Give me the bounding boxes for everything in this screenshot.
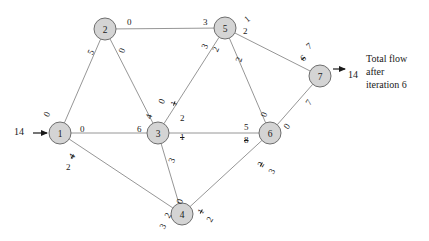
node-2[interactable]: 2 <box>94 18 116 40</box>
node-label-7: 7 <box>318 72 323 82</box>
caption-line-2: iteration 6 <box>366 78 407 91</box>
node-6[interactable]: 6 <box>259 122 281 144</box>
edge-label-l3-6-at3: 1 <box>180 133 185 142</box>
edge-2-3 <box>110 39 153 123</box>
edge-label-l3-6-at6a: 5 <box>244 123 249 132</box>
edge-label-l3-5-at3b: 2 <box>180 114 185 123</box>
node-label-2: 2 <box>103 25 108 35</box>
node-5[interactable]: 5 <box>214 17 236 39</box>
edge-label-l5-7-at5b: 2 <box>243 27 248 36</box>
node-label-5: 5 <box>223 24 228 34</box>
edge-3-4 <box>161 144 179 204</box>
network-flow-diagram: 1234567 05064223040031232301582012761223… <box>0 0 429 241</box>
edge-5-7 <box>235 33 310 71</box>
edge-label-l1-3-at3: 6 <box>137 125 142 134</box>
edge-4-6 <box>190 140 262 206</box>
edge-label-l2-5-at2: 0 <box>127 18 132 27</box>
caption-line-1: after <box>366 65 407 78</box>
node-label-4: 4 <box>180 210 185 220</box>
node-7[interactable]: 7 <box>309 65 331 87</box>
node-label-6: 6 <box>268 129 273 139</box>
node-4[interactable]: 4 <box>171 203 193 225</box>
node-label-1: 1 <box>58 129 63 139</box>
network-graph-svg: 1234567 <box>0 0 429 241</box>
edge-label-l3-6-at6b: 8 <box>244 136 249 145</box>
edge-label-l1-3-at1: 0 <box>80 125 85 134</box>
nodes-layer: 1234567 <box>49 17 331 225</box>
edge-label-l2-5-at5: 3 <box>203 18 208 27</box>
sink-flow-value: 14 <box>348 69 358 80</box>
caption-line-0: Total flow <box>366 52 407 65</box>
edge-label-l1-4-at1b: 2 <box>66 163 71 172</box>
node-label-3: 3 <box>156 129 161 139</box>
edge-2-5 <box>116 28 214 29</box>
edge-1-4 <box>69 139 173 208</box>
edges-layer <box>64 28 312 208</box>
total-flow-caption: Total flowafteriteration 6 <box>366 52 407 91</box>
node-3[interactable]: 3 <box>147 122 169 144</box>
node-1[interactable]: 1 <box>49 122 71 144</box>
source-flow-value: 14 <box>14 126 24 137</box>
edge-3-5 <box>164 37 219 123</box>
